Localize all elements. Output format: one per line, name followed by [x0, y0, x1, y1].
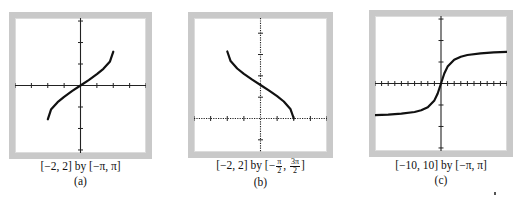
label-c: (c): [369, 174, 513, 186]
fraction-3pi-over-2: 3π2: [290, 158, 300, 175]
label-b: (b): [188, 176, 333, 188]
plot-a: [15, 18, 146, 153]
graph-window-c: [369, 10, 513, 157]
scan-speck: [494, 192, 496, 195]
plot-b: [194, 18, 327, 152]
caption-b-prefix: [−2, 2] by [−: [216, 159, 275, 171]
graph-window-b: [188, 12, 333, 158]
graph-window-a: [9, 12, 152, 159]
label-a: (a): [9, 175, 152, 187]
caption-c: [−10, 10] by [−π, π]: [369, 159, 513, 171]
caption-b: [−2, 2] by [−π2, 3π2]: [188, 158, 333, 175]
plot-c: [375, 16, 507, 151]
fraction-pi-over-2: π2: [276, 158, 282, 175]
caption-a: [−2, 2] by [−π, π]: [9, 160, 152, 172]
